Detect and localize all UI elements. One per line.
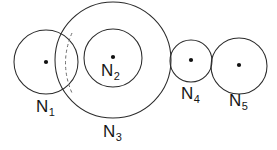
label-n3: N3 <box>103 123 121 140</box>
label-n5: N5 <box>229 92 247 109</box>
label-n1-subscript: 1 <box>49 106 55 118</box>
label-n1: N1 <box>36 98 54 115</box>
label-n2-base: N <box>101 61 113 80</box>
label-n2: N2 <box>101 62 119 79</box>
label-n3-subscript: 3 <box>116 131 122 143</box>
circle-n3[interactable] <box>55 2 171 118</box>
center-dot-n5 <box>237 63 241 67</box>
label-n2-subscript: 2 <box>114 70 120 82</box>
center-dot-n4 <box>189 58 193 62</box>
circles-svg <box>0 0 277 150</box>
label-n4-base: N <box>181 84 193 103</box>
center-dot-n1 <box>44 60 48 64</box>
label-n1-base: N <box>36 97 48 116</box>
label-n3-base: N <box>103 122 115 141</box>
label-n5-subscript: 5 <box>242 100 248 112</box>
label-n5-base: N <box>229 91 241 110</box>
label-n4: N4 <box>181 85 199 102</box>
label-n4-subscript: 4 <box>194 93 200 105</box>
diagram-canvas: N1 N2 N3 N4 N5 <box>0 0 277 150</box>
center-dot-n2 <box>111 55 115 59</box>
